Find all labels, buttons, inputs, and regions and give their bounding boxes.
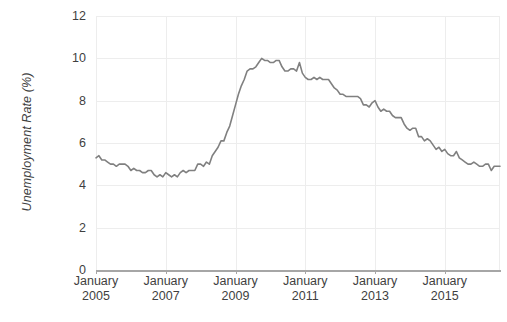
y-axis-tick-label: 6 [60,137,86,149]
gridline-vertical [236,16,237,270]
gridline-vertical [96,16,97,270]
x-axis-tick-label-year: 2013 [335,289,415,304]
unemployment-rate-line-chart: Unemployment Rate (%) 024681012 January2… [0,0,507,322]
x-axis-tick-label-year: 2009 [196,289,276,304]
gridline-horizontal [96,58,500,59]
x-axis-tick-labels: January2005January2007January2009January… [0,274,507,320]
x-axis-tick-mark [236,270,237,274]
x-axis-tick-label-month: January [56,274,136,289]
gridline-horizontal [96,228,500,229]
x-axis-tick-label-month: January [126,274,206,289]
gridline-horizontal [96,143,500,144]
x-axis-tick-mark [375,270,376,274]
gridline-vertical [375,16,376,270]
x-axis-line [96,270,501,272]
x-axis-tick-label: January2005 [56,274,136,304]
x-axis-tick-label-month: January [265,274,345,289]
gridline-horizontal [96,16,500,17]
x-axis-tick-mark [305,270,306,274]
x-axis-tick-mark [445,270,446,274]
gridline-horizontal [96,101,500,102]
y-axis-tick-label: 12 [60,10,86,22]
x-axis-tick-label-year: 2007 [126,289,206,304]
x-axis-tick-label-month: January [405,274,485,289]
x-axis-tick-label-year: 2005 [56,289,136,304]
x-axis-tick-label-month: January [335,274,415,289]
x-axis-tick-label-month: January [196,274,276,289]
gridline-vertical [166,16,167,270]
gridline-vertical [499,16,500,270]
plot-area [96,16,500,270]
x-axis-tick-label-year: 2011 [265,289,345,304]
x-axis-tick-mark [166,270,167,274]
gridline-vertical [445,16,446,270]
gridline-vertical [305,16,306,270]
x-axis-tick-label: January2015 [405,274,485,304]
y-axis-title: Unemployment Rate (%) [20,42,34,242]
x-axis-tick-label-year: 2015 [405,289,485,304]
y-axis-tick-label: 4 [60,179,86,191]
y-axis-tick-label: 2 [60,222,86,234]
x-axis-tick-label: January2007 [126,274,206,304]
x-axis-tick-mark [96,270,97,274]
x-axis-tick-label: January2009 [196,274,276,304]
x-axis-tick-label: January2011 [265,274,345,304]
gridline-horizontal [96,185,500,186]
y-axis-tick-label: 8 [60,95,86,107]
x-axis-tick-label: January2013 [335,274,415,304]
y-axis-tick-label: 10 [60,52,86,64]
